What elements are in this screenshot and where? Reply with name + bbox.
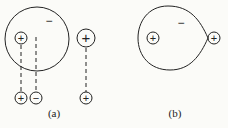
- teardrop-shape: [138, 6, 208, 70]
- panel-a-label: (a): [48, 107, 61, 120]
- tip-plus: +: [211, 32, 217, 44]
- bottom-plus-1: +: [18, 92, 24, 104]
- inner-plus: +: [18, 32, 24, 44]
- diagram-canvas: − + + + − + − + + (a) (b): [0, 0, 228, 128]
- large-circle-minus: −: [45, 14, 52, 28]
- bottom-plus-2: +: [83, 92, 89, 104]
- separate-plus: +: [82, 29, 91, 46]
- teardrop-inner-plus: +: [150, 32, 156, 44]
- panel-b-label: (b): [169, 107, 182, 120]
- bottom-minus: −: [33, 92, 39, 104]
- teardrop-minus: −: [177, 16, 184, 30]
